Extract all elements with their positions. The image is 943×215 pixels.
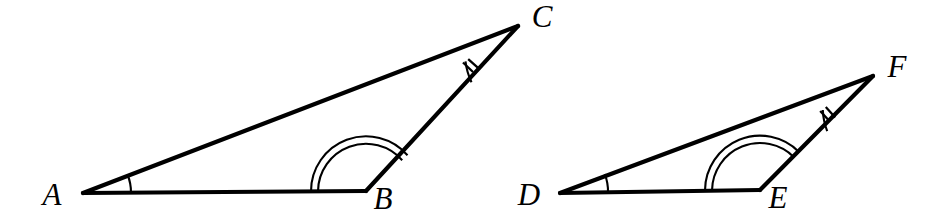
angle-mark-c-tick2: [468, 59, 478, 68]
angle-mark-a-arc1: [128, 175, 132, 193]
vertex-label-b: B: [374, 181, 393, 215]
triangle-abc: A B C: [41, 0, 553, 215]
segment-ab: [83, 191, 366, 193]
segment-de: [560, 190, 760, 193]
triangle-def: D E F: [517, 49, 908, 215]
geometry-figure: A B C D E F: [0, 0, 943, 215]
segment-df: [560, 76, 873, 193]
segment-ac: [83, 26, 518, 193]
vertex-label-f: F: [887, 49, 908, 84]
vertex-label-e: E: [768, 180, 788, 215]
vertex-label-c: C: [532, 0, 553, 34]
vertex-label-a: A: [41, 177, 63, 212]
vertex-label-d: D: [517, 177, 540, 212]
angle-mark-f-tick2: [826, 107, 835, 117]
segment-ef: [760, 76, 873, 190]
segment-bc: [366, 26, 518, 191]
similar-triangles-diagram: A B C D E F: [0, 0, 943, 215]
